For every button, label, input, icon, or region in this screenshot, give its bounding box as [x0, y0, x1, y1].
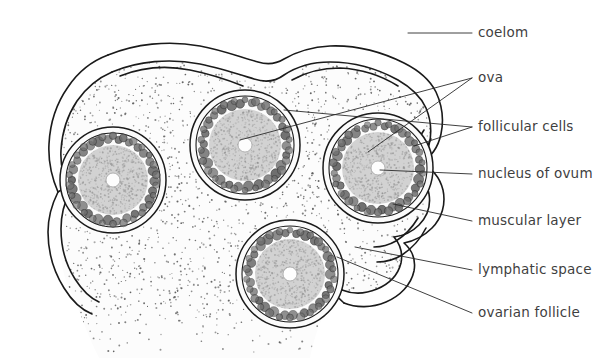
follicular-cell	[212, 108, 218, 114]
label-ova: ova	[478, 69, 503, 85]
follicular-cell	[152, 171, 160, 179]
ovary-diagram-figure: coelomovafollicular cellsnucleus of ovum…	[0, 0, 616, 358]
follicular-cell	[403, 197, 411, 205]
follicular-cell	[253, 185, 259, 191]
follicular-cell	[150, 192, 156, 198]
follicular-cell	[242, 187, 248, 193]
follicular-cell	[276, 314, 282, 320]
follicular-cell	[150, 161, 157, 168]
follicular-cell	[80, 143, 88, 151]
follicular-cell	[345, 197, 353, 205]
follicle-left	[60, 127, 166, 233]
follicular-cell	[338, 139, 346, 147]
follicular-cell	[66, 181, 74, 189]
label-text-group: coelomovafollicular cellsnucleus of ovum…	[478, 24, 593, 320]
follicular-cell	[287, 227, 293, 233]
follicular-cell	[69, 193, 75, 199]
follicular-cell	[282, 157, 290, 165]
follicular-cell	[385, 207, 393, 215]
follicular-cell	[120, 219, 128, 227]
follicular-cell	[333, 181, 339, 187]
follicular-cell	[322, 295, 330, 303]
follicular-cell	[139, 209, 146, 216]
follicular-cell	[243, 265, 251, 273]
nucleus-of-ovum	[283, 267, 297, 281]
follicular-cell	[153, 182, 159, 188]
follicular-cell	[262, 101, 270, 109]
follicular-cell	[89, 138, 97, 146]
follicular-cell	[345, 131, 353, 139]
follicular-cell	[364, 208, 371, 215]
label-lymphatic-space: lymphatic space	[478, 261, 592, 277]
follicle-middle	[190, 90, 300, 200]
follicular-cell	[69, 161, 75, 167]
follicular-cell	[327, 286, 334, 293]
follicular-cell	[251, 98, 259, 106]
label-ovarian-follicle: ovarian follicle	[478, 304, 580, 320]
follicular-cell	[130, 216, 136, 222]
follicular-cell	[272, 175, 278, 181]
follicular-cell	[314, 238, 322, 246]
follicular-cell	[329, 159, 337, 167]
nucleus-of-ovum	[371, 161, 385, 175]
follicular-cell	[221, 182, 227, 188]
diagram-canvas: coelomovafollicular cellsnucleus of ovum…	[0, 0, 616, 358]
follicular-cell	[206, 117, 212, 123]
follicular-cell	[66, 172, 72, 178]
follicular-cell	[146, 152, 152, 158]
follicular-cell	[73, 201, 81, 209]
follicular-cell	[139, 144, 145, 150]
follicular-cell	[257, 237, 265, 245]
follicular-cell	[332, 148, 339, 155]
follicular-cell	[330, 266, 336, 272]
follicular-cell	[198, 147, 204, 153]
follicular-cell	[119, 134, 127, 142]
follicular-cell	[374, 208, 381, 215]
follicular-cell	[231, 185, 238, 192]
follicular-cell	[419, 160, 425, 166]
follicular-cell	[266, 231, 274, 239]
follicular-cell	[297, 229, 304, 236]
follicular-cell	[323, 246, 329, 252]
follicular-cell	[338, 190, 344, 196]
follicular-cell	[375, 119, 381, 125]
follicular-cell	[265, 309, 273, 317]
follicular-cell	[74, 152, 81, 159]
follicular-cell	[386, 122, 392, 128]
follicular-cell	[297, 313, 305, 321]
follicular-cell	[99, 220, 105, 226]
follicular-cell	[412, 190, 418, 196]
follicular-cell	[315, 303, 322, 310]
follicular-cell	[242, 97, 248, 103]
follicular-cell	[99, 134, 106, 141]
follicular-cell	[307, 309, 314, 316]
label-follicular-cells: follicular cells	[478, 118, 574, 134]
follicular-cell	[231, 98, 237, 104]
follicular-cell	[331, 276, 338, 283]
follicular-cell	[244, 276, 250, 282]
follicular-cell	[212, 176, 218, 182]
follicular-cell	[129, 137, 137, 145]
follicular-cell	[145, 201, 152, 208]
follicular-cell	[286, 137, 292, 143]
follicular-cell	[251, 295, 259, 303]
follicular-cell	[246, 255, 252, 261]
follicular-cell	[81, 209, 87, 215]
follicular-cell	[251, 246, 257, 252]
follicular-cell	[109, 220, 116, 227]
follicular-cell	[261, 180, 269, 188]
follicular-cell	[200, 126, 207, 133]
follicular-cell	[199, 157, 206, 164]
follicular-cell	[287, 314, 294, 321]
follicular-cell	[307, 232, 314, 239]
label-coelom: coelom	[478, 24, 528, 40]
follicular-cell	[279, 116, 285, 122]
follicular-cell	[416, 149, 423, 156]
follicular-cell	[277, 166, 285, 174]
follicular-cell	[258, 304, 264, 310]
follicular-cell	[354, 126, 360, 132]
label-muscular-layer: muscular layer	[478, 212, 582, 228]
follicular-cell	[271, 109, 277, 115]
follicular-cell	[276, 228, 283, 235]
follicular-cell	[204, 167, 212, 175]
